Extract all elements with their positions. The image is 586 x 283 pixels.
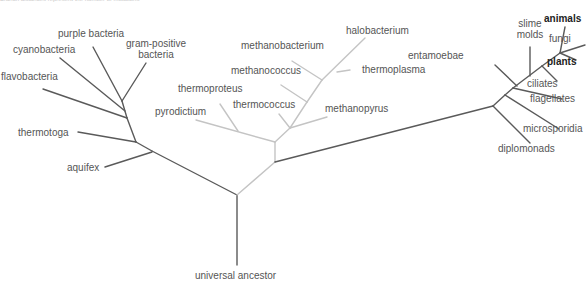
label-aquifex: aquifex — [67, 162, 99, 173]
label-pyrodictium: pyrodictium — [155, 106, 206, 117]
label-animals: animals — [544, 13, 581, 24]
label-methanococcus: methanococcus — [231, 65, 301, 76]
label-slime-molds-line1: slime — [518, 18, 541, 29]
label-gram-positive-line1: gram-positive — [126, 38, 186, 49]
label-thermotoga: thermotoga — [18, 127, 69, 138]
label-slime-molds-line2: molds — [517, 29, 544, 40]
label-cyanobacteria: cyanobacteria — [13, 44, 75, 55]
label-microsporidia: microsporidia — [523, 123, 582, 134]
label-flagellates: flagellates — [530, 93, 575, 104]
label-flavobacteria: flavobacteria — [1, 71, 58, 82]
label-ciliates: ciliates — [527, 78, 558, 89]
label-thermoplasma: thermoplasma — [362, 64, 425, 75]
archaea-branches — [196, 38, 365, 195]
label-diplomonads: diplomonads — [498, 143, 555, 154]
label-thermoproteus: thermoproteus — [178, 83, 242, 94]
label-entamoebae: entamoebae — [408, 50, 464, 61]
label-methanopyrus: methanopyrus — [325, 103, 388, 114]
label-gram-positive-line2: bacteria — [138, 49, 174, 60]
label-gram-positive: gram-positive bacteria — [125, 38, 187, 60]
label-universal-ancestor: universal ancestor — [195, 270, 276, 281]
label-halobacterium: halobacterium — [346, 25, 409, 36]
label-thermococcus: thermococcus — [233, 99, 295, 110]
bacteria-branches — [43, 47, 237, 265]
label-methanobacterium: methanobacterium — [241, 40, 324, 51]
label-plants: plants — [547, 56, 576, 67]
label-fungi: fungi — [549, 33, 571, 44]
label-purple-bacteria: purple bacteria — [58, 28, 124, 39]
